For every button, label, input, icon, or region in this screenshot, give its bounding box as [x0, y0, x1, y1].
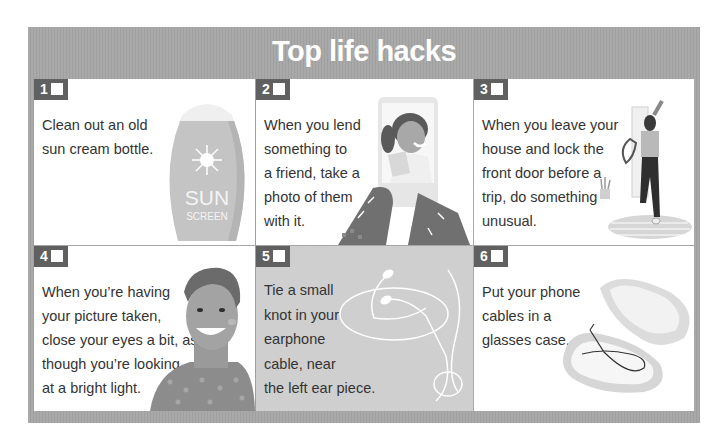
svg-text:SUN: SUN: [185, 186, 229, 209]
hack-card-1: 1 Clean out an oldsun cream bottle. SUN …: [34, 79, 255, 245]
hack-card-6: 6 Put your phonecables in aglasses case.: [474, 246, 694, 411]
page-title: Top life hacks: [28, 33, 700, 69]
smiling-man-icon: [150, 262, 255, 411]
hack-card-4: 4 When you’re havingyour picture taken,c…: [34, 246, 255, 411]
checkbox[interactable]: [273, 250, 285, 262]
checkbox[interactable]: [491, 83, 503, 95]
hack-card-3: 3 When you leave yourhouse and lock thef…: [474, 79, 694, 245]
earphones-icon: [336, 256, 473, 406]
sunscreen-bottle-icon: SUN SCREEN: [162, 93, 254, 245]
hack-card-5: 5 Tie a smallknot in yourearphonecable, …: [256, 246, 473, 411]
number-badge: 2: [256, 79, 290, 100]
checkbox[interactable]: [51, 250, 63, 262]
number-badge: 4: [34, 246, 68, 267]
checkbox[interactable]: [491, 250, 503, 262]
hack-card-2: 2 When you lendsomething toa friend, tak…: [256, 79, 473, 245]
phone-photo-icon: [338, 93, 473, 245]
svg-text:SCREEN: SCREEN: [186, 211, 228, 222]
checkbox[interactable]: [51, 83, 63, 95]
number-badge: 5: [256, 246, 290, 267]
number-badge: 3: [474, 79, 508, 100]
hack-text: Clean out an oldsun cream bottle.: [42, 113, 153, 161]
glasses-case-icon: [560, 268, 694, 403]
woman-at-door-icon: [590, 99, 694, 245]
number-badge: 1: [34, 79, 68, 100]
number-badge: 6: [474, 246, 508, 267]
life-hacks-panel: Top life hacks 1 Clean out an oldsun cre…: [28, 27, 700, 423]
checkbox[interactable]: [273, 83, 285, 95]
